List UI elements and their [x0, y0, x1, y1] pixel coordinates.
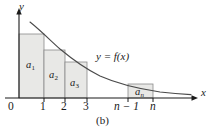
- n-text: n: [150, 100, 156, 112]
- x-tick-label-3: 3: [83, 101, 89, 113]
- n-minus-1-text: n − 1: [114, 100, 139, 112]
- x-axis-arrowhead: [192, 95, 199, 101]
- x-tick-label-n-minus-1: n − 1: [114, 101, 139, 113]
- curve-label: y = f(x): [96, 51, 129, 62]
- curve-label-text: y = f(x): [96, 50, 129, 62]
- bar-label-a3-base: a: [70, 77, 75, 88]
- figure-container: y x 0 1 2 3 n − 1 n a1 a2 a3 an y = f(x)…: [0, 0, 211, 131]
- bar-label-a3: a3: [70, 78, 79, 89]
- x-axis-label: x: [201, 87, 206, 98]
- bar-label-an: an: [135, 87, 144, 98]
- figure-caption: (b): [96, 115, 109, 126]
- bar-label-a1-sub: 1: [32, 64, 36, 72]
- x-tick-label-n: n: [150, 101, 156, 113]
- x-tick-label-0: 0: [8, 101, 14, 113]
- bar-label-a1: a1: [26, 60, 35, 71]
- x-tick-label-1: 1: [40, 101, 46, 113]
- x-tick-label-2: 2: [61, 101, 67, 113]
- bar-label-a2: a2: [49, 70, 58, 81]
- bar-label-an-sub: n: [141, 91, 145, 99]
- bar-label-a2-sub: 2: [55, 74, 59, 82]
- bar-label-a3-sub: 3: [76, 82, 80, 90]
- bar-label-an-base: a: [135, 86, 140, 97]
- bar-label-a1-base: a: [26, 59, 31, 70]
- y-axis-label: y: [19, 1, 24, 12]
- bar-label-a2-base: a: [49, 69, 54, 80]
